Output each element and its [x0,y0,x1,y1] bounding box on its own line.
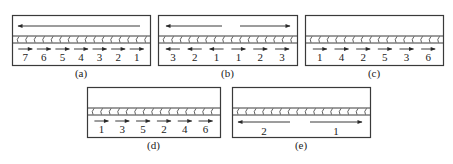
panel-a: 7654321(a) [12,16,151,81]
weld-bead-ripples [310,37,439,43]
weld-bead-ripples [237,109,366,115]
segment-order-label: 1 [333,125,339,137]
segment-order-label: 6 [203,123,209,135]
panel-b: 321123(b) [158,16,298,81]
segment-order-label: 1 [99,123,105,135]
panel-d: 135246(d) [87,88,221,153]
segment-order-label: 1 [134,51,140,63]
panel-caption: (b) [221,67,234,80]
segment-order-label: 6 [425,51,431,63]
panel-c: 142536(c) [305,16,444,81]
segment-order-label: 1 [214,51,220,63]
weld-bead-ripples [92,109,213,115]
panel-caption: (a) [75,67,88,80]
segment-order-label: 3 [279,51,285,63]
segment-order-label: 4 [339,51,345,63]
panel-caption: (e) [295,139,308,152]
plate-outline [306,16,444,66]
segment-order-label: 6 [41,51,47,63]
segment-order-label: 5 [60,51,66,63]
segment-order-label: 4 [78,51,84,63]
segment-order-label: 2 [115,51,121,63]
segment-order-label: 2 [360,51,366,63]
weld-bead-ripples [163,37,292,43]
segment-order-label: 1 [236,51,242,63]
welding-sequence-diagram: 7654321(a)321123(b)142536(c)135246(d)21(… [0,0,453,164]
segment-order-label: 3 [97,51,103,63]
panel-e: 21(e) [232,88,371,153]
segment-order-label: 1 [317,51,323,63]
segment-order-label: 3 [404,51,410,63]
segment-order-label: 2 [258,51,264,63]
plate-outline [233,88,371,138]
panel-caption: (c) [368,67,381,80]
segment-order-label: 2 [192,51,198,63]
segment-order-label: 3 [170,51,176,63]
plate-outline [88,88,221,138]
segment-order-label: 3 [120,123,126,135]
segment-order-label: 5 [140,123,146,135]
segment-order-label: 2 [261,125,267,137]
segment-order-label: 4 [182,123,188,135]
segment-order-label: 7 [23,51,29,63]
weld-bead-ripples [17,37,146,43]
segment-order-label: 2 [161,123,167,135]
plate-outline [159,16,298,66]
segment-order-label: 5 [382,51,388,63]
panel-caption: (d) [147,139,160,152]
